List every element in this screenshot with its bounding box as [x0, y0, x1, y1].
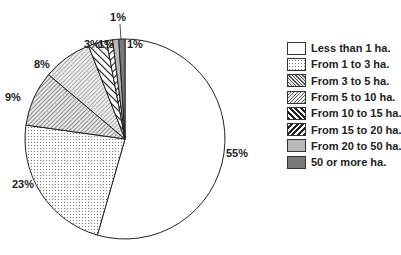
legend-label: From 10 to 15 ha.	[311, 107, 401, 119]
percent-label: 1%	[110, 11, 126, 23]
percent-label: 1%	[127, 38, 143, 50]
swatch-fine-diagonal-light	[287, 91, 306, 104]
swatch-light-gray	[287, 139, 306, 152]
percent-label: 8%	[34, 58, 50, 70]
legend-label: 50 or more ha.	[311, 156, 386, 168]
leader-line	[120, 24, 121, 40]
swatch-dark-gray	[287, 156, 306, 169]
percent-label: 55%	[226, 147, 248, 159]
legend-item-1-to-3: From 1 to 3 ha.	[287, 56, 401, 72]
legend-label: From 5 to 10 ha.	[311, 91, 395, 103]
legend-item-10-to-15: From 10 to 15 ha.	[287, 105, 401, 121]
legend-label: From 1 to 3 ha.	[311, 58, 389, 70]
swatch-backslash-hatch	[287, 107, 306, 120]
legend-item-15-to-20: From 15 to 20 ha.	[287, 121, 401, 137]
percent-label: 1%	[98, 38, 114, 50]
legend-label: From 15 to 20 ha.	[311, 124, 401, 136]
legend-item-50-or-more: 50 or more ha.	[287, 154, 401, 170]
legend-item-less-than-1: Less than 1 ha.	[287, 40, 401, 56]
legend-item-5-to-10: From 5 to 10 ha.	[287, 89, 401, 105]
swatch-slash-hatch	[287, 123, 306, 136]
legend-label: From 20 to 50 ha.	[311, 140, 401, 152]
swatch-dots	[287, 58, 306, 71]
swatch-fine-diagonal-dense	[287, 74, 306, 87]
legend-label: Less than 1 ha.	[311, 42, 390, 54]
legend-item-20-to-50: From 20 to 50 ha.	[287, 138, 401, 154]
pie-slices	[25, 39, 225, 239]
legend-item-3-to-5: From 3 to 5 ha.	[287, 73, 401, 89]
legend-label: From 3 to 5 ha.	[311, 75, 389, 87]
percent-label: 23%	[12, 178, 34, 190]
swatch-blank	[287, 42, 306, 55]
percent-label: 9%	[5, 91, 21, 103]
legend: Less than 1 ha. From 1 to 3 ha. From 3 t…	[287, 40, 401, 170]
